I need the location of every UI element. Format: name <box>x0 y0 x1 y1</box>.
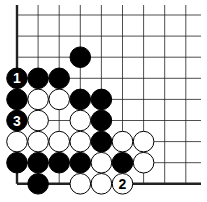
white-stone <box>70 131 91 152</box>
go-board: 132 <box>0 0 207 202</box>
black-stone <box>49 152 70 173</box>
move-number-label: 3 <box>13 113 21 129</box>
white-stone <box>70 110 91 131</box>
white-stone <box>28 89 49 110</box>
black-stone <box>70 47 91 68</box>
black-stone <box>28 152 49 173</box>
black-stone <box>28 174 49 195</box>
black-stone: 3 <box>7 110 28 131</box>
white-stone: 2 <box>112 174 133 195</box>
black-stone <box>70 89 91 110</box>
white-stone <box>133 152 154 173</box>
white-stone <box>70 174 91 195</box>
white-stone <box>28 131 49 152</box>
black-stone <box>91 89 112 110</box>
white-stone <box>112 131 133 152</box>
black-stone <box>7 89 28 110</box>
white-stone <box>133 131 154 152</box>
move-number-label: 2 <box>119 176 127 192</box>
white-stone <box>91 174 112 195</box>
white-stone <box>49 131 70 152</box>
black-stone <box>7 152 28 173</box>
black-stone <box>91 131 112 152</box>
black-stone <box>49 68 70 89</box>
white-stone <box>7 131 28 152</box>
white-stone <box>91 152 112 173</box>
black-stone <box>91 110 112 131</box>
black-stone <box>70 152 91 173</box>
move-number-label: 1 <box>13 70 21 86</box>
white-stone <box>49 89 70 110</box>
black-stone <box>28 68 49 89</box>
black-stone <box>112 152 133 173</box>
black-stone: 1 <box>7 68 28 89</box>
white-stone <box>28 110 49 131</box>
